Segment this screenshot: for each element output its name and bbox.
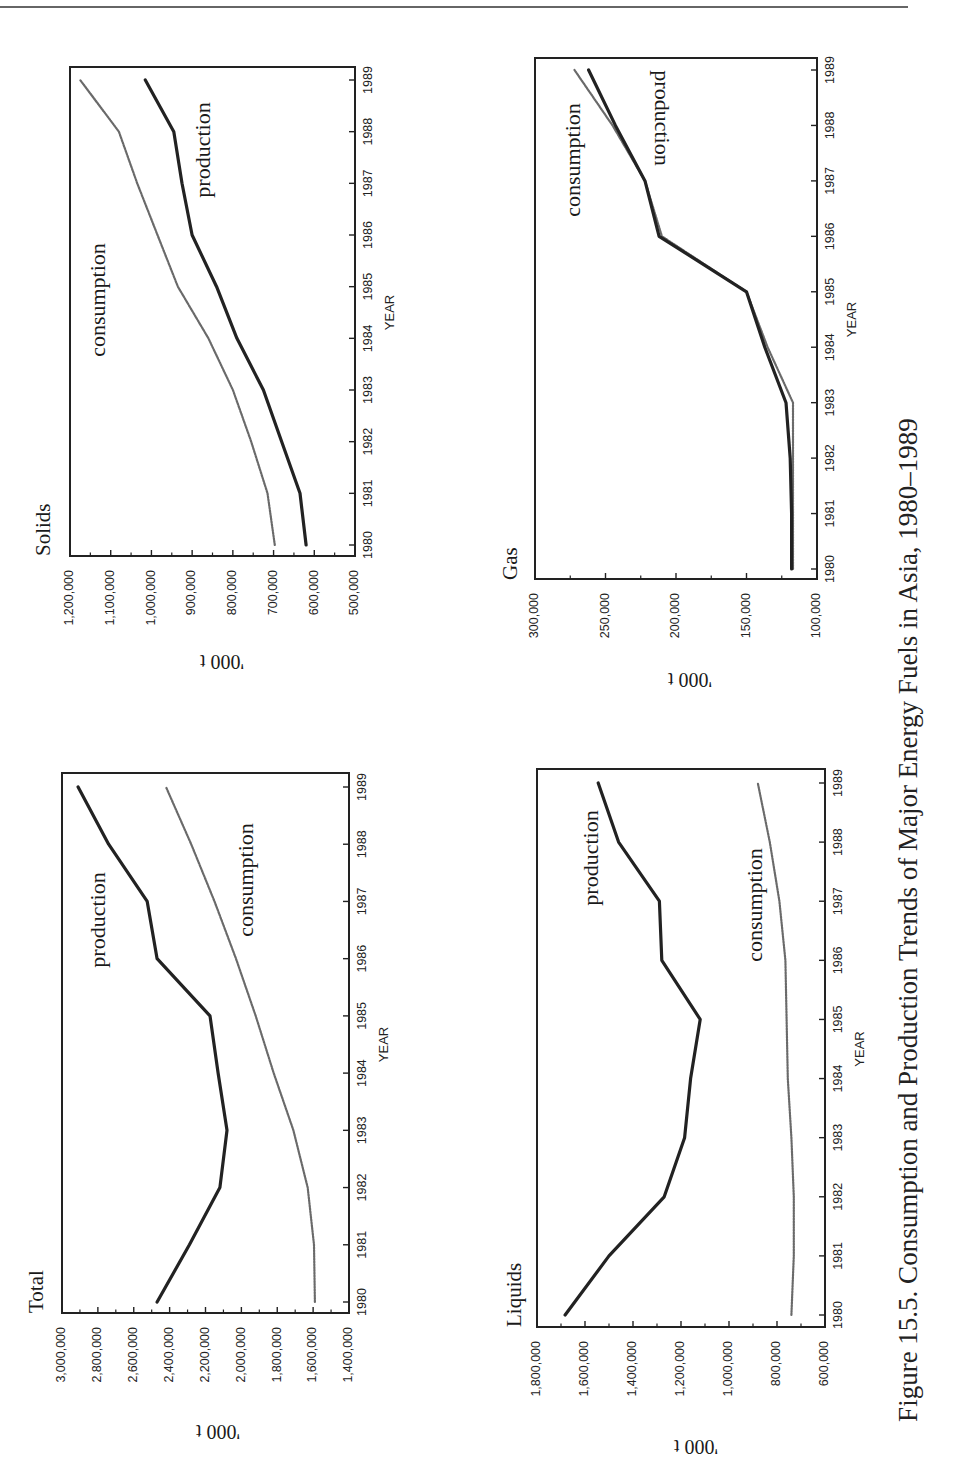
- figure-canvas: 1,200,0001,100,0001,000,000900,000800,00…: [0, 0, 956, 1480]
- year-tick-label: 1981: [361, 479, 375, 507]
- value-tick-label: 1,000,000: [721, 1341, 735, 1397]
- year-tick-label: 1987: [355, 887, 369, 915]
- year-tick-label: 1989: [823, 56, 837, 84]
- value-tick-label: 300,000: [527, 593, 541, 638]
- value-tick-label: 2,000,000: [234, 1327, 248, 1383]
- year-tick-label: 1988: [361, 118, 375, 146]
- year-tick-label: 1989: [355, 773, 369, 801]
- x-axis-title: YEAR: [844, 302, 859, 337]
- year-tick-label: 1988: [355, 830, 369, 858]
- consumption-line: [575, 70, 794, 569]
- unit-label: '000 t: [195, 1421, 240, 1443]
- chart-panel-solids: 1,200,0001,100,0001,000,000900,000800,00…: [31, 66, 398, 673]
- year-tick-label: 1985: [361, 273, 375, 301]
- year-tick-label: 1984: [823, 333, 837, 361]
- production-line: [589, 70, 792, 569]
- chart-panel-gas: 300,000250,000200,000150,000100,00019801…: [498, 56, 860, 691]
- value-tick-label: 150,000: [739, 593, 753, 638]
- panel-title: Total: [24, 1270, 48, 1313]
- value-tick-label: 1,100,000: [103, 570, 117, 626]
- figure-caption: Figure 15.5. Consumption and Production …: [893, 418, 924, 1422]
- consumption-annotation: consumption: [742, 848, 767, 962]
- value-tick-label: 1,800,000: [529, 1341, 543, 1397]
- production-line: [145, 80, 306, 545]
- year-tick-label: 1984: [361, 324, 375, 352]
- year-tick-label: 1986: [823, 222, 837, 250]
- year-tick-label: 1989: [831, 769, 845, 797]
- year-tick-label: 1983: [361, 376, 375, 404]
- year-tick-label: 1984: [831, 1065, 845, 1093]
- value-tick-label: 1,000,000: [144, 570, 158, 626]
- year-tick-label: 1986: [831, 946, 845, 974]
- value-tick-label: 900,000: [184, 570, 198, 615]
- year-tick-label: 1981: [355, 1231, 369, 1259]
- x-axis-title: YEAR: [382, 295, 397, 330]
- year-tick-label: 1982: [355, 1174, 369, 1202]
- consumption-annotation: consumption: [233, 823, 258, 937]
- panel-title: Gas: [498, 547, 522, 580]
- year-tick-label: 1980: [355, 1288, 369, 1316]
- year-tick-label: 1988: [823, 111, 837, 139]
- year-tick-label: 1984: [355, 1059, 369, 1087]
- value-tick-label: 1,600,000: [577, 1341, 591, 1397]
- year-tick-label: 1983: [831, 1124, 845, 1152]
- year-tick-label: 1985: [831, 1005, 845, 1033]
- year-tick-label: 1983: [823, 389, 837, 417]
- value-tick-label: 1,200,000: [62, 570, 76, 626]
- year-tick-label: 1982: [823, 444, 837, 472]
- value-tick-label: 1,600,000: [305, 1327, 319, 1383]
- value-tick-label: 600,000: [307, 570, 321, 615]
- year-tick-label: 1981: [823, 500, 837, 528]
- figure-page: 1,200,0001,100,0001,000,000900,000800,00…: [0, 0, 956, 1480]
- value-tick-label: 700,000: [266, 570, 280, 615]
- year-tick-label: 1981: [831, 1242, 845, 1270]
- value-tick-label: 1,800,000: [270, 1327, 284, 1383]
- unit-label: '000 t: [667, 669, 712, 691]
- consumption-annotation: consumption: [560, 103, 585, 217]
- year-tick-label: 1986: [355, 945, 369, 973]
- production-annotation: production: [578, 810, 603, 905]
- value-tick-label: 1,400,000: [625, 1341, 639, 1397]
- value-tick-label: 2,200,000: [198, 1327, 212, 1383]
- value-tick-label: 3,000,000: [54, 1327, 68, 1383]
- production-annotation: production: [85, 872, 110, 967]
- production-line: [78, 787, 227, 1302]
- x-axis-title: YEAR: [376, 1027, 391, 1062]
- year-tick-label: 1980: [831, 1301, 845, 1329]
- chart-panel-total: 3,000,0002,800,0002,600,0002,400,0002,20…: [24, 773, 392, 1443]
- year-tick-label: 1987: [361, 169, 375, 197]
- year-tick-label: 1983: [355, 1116, 369, 1144]
- panel-title: Solids: [31, 503, 55, 556]
- value-tick-label: 2,600,000: [126, 1327, 140, 1383]
- value-tick-label: 2,800,000: [90, 1327, 104, 1383]
- consumption-annotation: consumption: [85, 243, 110, 357]
- chart-panel-liquids: 1,800,0001,600,0001,400,0001,200,0001,00…: [502, 769, 868, 1458]
- year-tick-label: 1985: [355, 1002, 369, 1030]
- value-tick-label: 1,200,000: [673, 1341, 687, 1397]
- value-tick-label: 600,000: [817, 1341, 831, 1386]
- value-tick-label: 500,000: [347, 570, 361, 615]
- x-axis-title: YEAR: [852, 1031, 867, 1066]
- year-tick-label: 1982: [361, 428, 375, 456]
- year-tick-label: 1989: [361, 66, 375, 94]
- plot-frame: [62, 773, 349, 1313]
- year-tick-label: 1987: [823, 167, 837, 195]
- unit-label: '000 t: [673, 1436, 718, 1458]
- year-tick-label: 1982: [831, 1183, 845, 1211]
- value-tick-label: 250,000: [598, 593, 612, 638]
- year-tick-label: 1980: [361, 531, 375, 559]
- year-tick-label: 1985: [823, 278, 837, 306]
- value-tick-label: 200,000: [668, 593, 682, 638]
- year-tick-label: 1987: [831, 887, 845, 915]
- value-tick-label: 100,000: [809, 593, 823, 638]
- value-tick-label: 800,000: [225, 570, 239, 615]
- production-annotation: production: [650, 70, 675, 165]
- year-tick-label: 1980: [823, 555, 837, 583]
- unit-label: '000 t: [199, 651, 244, 673]
- value-tick-label: 800,000: [769, 1341, 783, 1386]
- year-tick-label: 1988: [831, 828, 845, 856]
- value-tick-label: 1,400,000: [341, 1327, 355, 1383]
- production-annotation: production: [190, 102, 215, 197]
- panel-title: Liquids: [502, 1263, 526, 1327]
- year-tick-label: 1986: [361, 221, 375, 249]
